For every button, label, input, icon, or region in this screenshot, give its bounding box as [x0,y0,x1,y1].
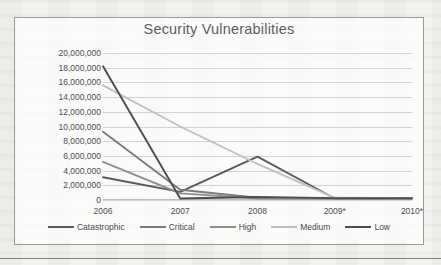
x-axis-tick-label: 2007 [171,206,190,216]
legend-item-low[interactable]: Low [345,222,390,232]
chart-container: Security Vulnerabilities 20,000,00018,00… [14,17,424,245]
legend-label: Catastrophic [77,222,125,232]
legend-label: Medium [300,222,330,232]
y-axis-tick-label: 0 [96,196,101,204]
legend-swatch-icon [140,226,166,228]
series-line-low [103,66,412,198]
chart-legend: CatastrophicCriticalHighMediumLow [15,222,423,232]
legend-item-critical[interactable]: Critical [140,222,195,232]
legend-swatch-icon [48,226,74,228]
legend-label: High [239,222,256,232]
legend-swatch-icon [345,226,371,228]
legend-item-catastrophic[interactable]: Catastrophic [48,222,125,232]
chart-title: Security Vulnerabilities [15,21,423,37]
x-axis-tick-label: 2006 [94,206,113,216]
legend-swatch-icon [271,226,297,228]
y-axis-tick-label: 2,000,000 [63,181,101,189]
y-axis-tick-label: 16,000,000 [58,78,101,86]
page-horizontal-rule [0,258,441,259]
x-axis-tick-label: 2008 [248,206,267,216]
y-axis-tick-label: 4,000,000 [63,167,101,175]
legend-item-medium[interactable]: Medium [271,222,330,232]
y-axis-tick-label: 14,000,000 [58,93,101,101]
series-line-critical [103,132,412,199]
legend-swatch-icon [210,226,236,228]
series-lines [103,53,412,200]
y-axis-tick-label: 8,000,000 [63,137,101,145]
plot-area [103,53,412,200]
legend-item-high[interactable]: High [210,222,256,232]
y-axis-tick-label: 10,000,000 [58,123,101,131]
x-axis-tick-labels: 2006200720082009*2010* [103,206,412,222]
y-axis-tick-labels: 20,000,00018,000,00016,000,00014,000,000… [33,47,101,207]
gridline [103,200,412,201]
y-axis-tick-label: 6,000,000 [63,152,101,160]
y-axis-tick-label: 12,000,000 [58,108,101,116]
y-axis-tick-label: 18,000,000 [58,64,101,72]
series-line-catastrophic [103,157,412,199]
legend-label: Low [374,222,390,232]
y-axis-tick-label: 20,000,000 [58,49,101,57]
legend-label: Critical [169,222,195,232]
x-axis-tick-label: 2009* [324,206,346,216]
x-axis-tick-label: 2010* [401,206,423,216]
